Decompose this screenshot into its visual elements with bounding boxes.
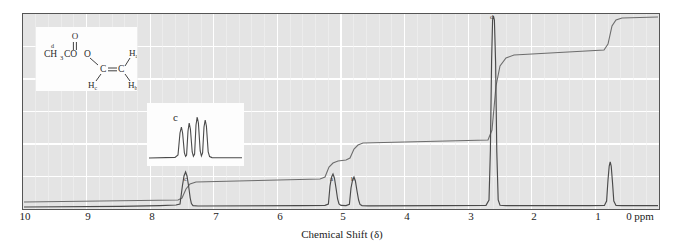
acetyl-group-label: CH [44,49,57,59]
expansion-label-c: c [173,111,178,123]
vinyl-carbon-1: C [100,64,106,74]
carbonyl-oxygen-label: O [72,31,79,41]
x-tick-1: 1 [595,211,601,222]
vinyl-carbon-2: C [118,64,124,74]
expansion-inset: c [147,103,244,166]
x-tick-4: 4 [404,211,410,222]
structure-inset: O d CH 3 CO O C C H a H b [36,27,137,91]
x-axis: 10 9 8 7 6 5 4 3 2 1 0 ppm [0,211,684,227]
svg-text:3: 3 [60,54,63,61]
peak-label-b: b [351,176,355,183]
svg-text:CO: CO [64,49,77,59]
x-tick-2: 2 [531,211,537,222]
x-tick-5: 5 [340,211,346,222]
svg-text:a: a [136,53,138,59]
peak-label-d: d [490,14,494,21]
x-tick-0: 0 [626,211,632,222]
x-tick-3: 3 [468,211,474,222]
nmr-figure: O d CH 3 CO O C C H a H b [0,0,684,249]
peak-label-c: c [184,176,187,183]
x-tick-8: 8 [149,211,155,222]
ppm-unit-label: ppm [634,211,654,222]
peak-label-a: a [330,176,333,183]
svg-text:b: b [135,85,138,91]
x-axis-title: Chemical Shift (δ) [0,229,684,240]
svg-text:c: c [95,85,98,91]
ester-oxygen-label: O [84,49,91,59]
x-tick-9: 9 [85,211,91,222]
x-tick-7: 7 [213,211,219,222]
x-tick-6: 6 [277,211,283,222]
x-tick-10: 10 [20,211,31,222]
